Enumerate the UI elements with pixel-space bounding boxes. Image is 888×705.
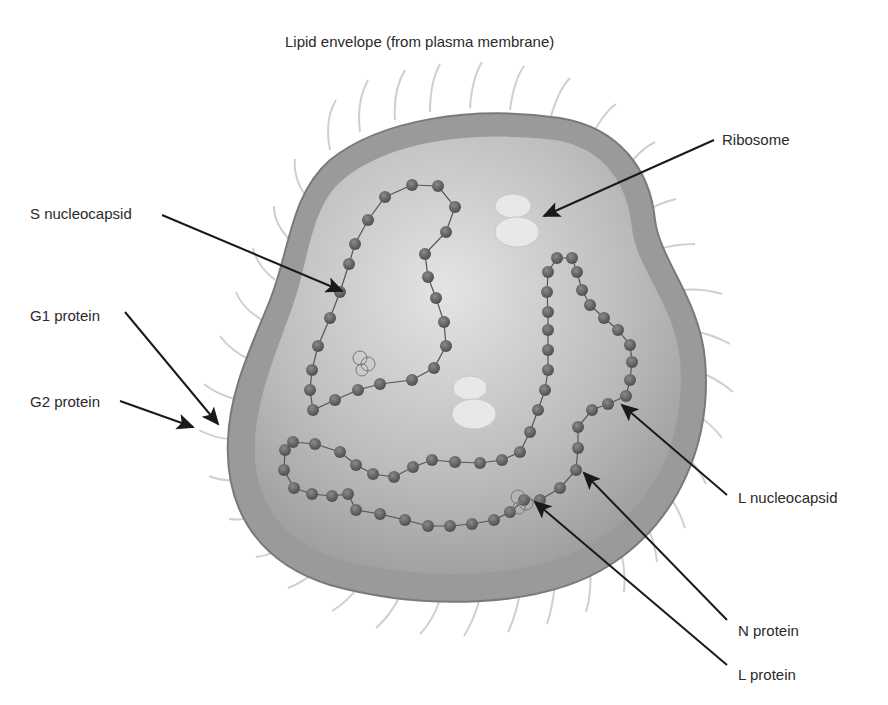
g2-protein-arrow bbox=[120, 401, 193, 427]
title-lipid-envelope: Lipid envelope (from plasma membrane) bbox=[285, 33, 554, 51]
label-g2-protein: G2 protein bbox=[30, 393, 100, 411]
label-n-protein: N protein bbox=[738, 622, 799, 640]
label-s-nucleocapsid: S nucleocapsid bbox=[30, 205, 132, 223]
label-l-protein: L protein bbox=[738, 666, 796, 684]
label-g1-protein: G1 protein bbox=[30, 307, 100, 325]
label-l-nucleocapsid: L nucleocapsid bbox=[738, 489, 838, 507]
virus-illustration bbox=[0, 0, 888, 705]
label-ribosome: Ribosome bbox=[722, 131, 790, 149]
